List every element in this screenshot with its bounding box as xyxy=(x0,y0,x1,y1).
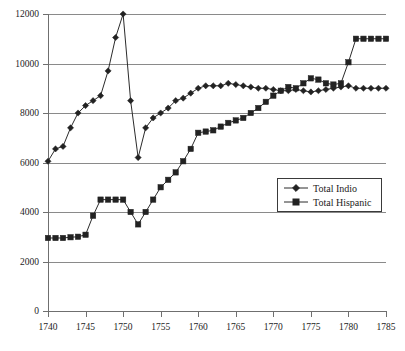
data-point-0-9 xyxy=(113,34,119,40)
x-tick-label-1755: 1755 xyxy=(151,322,170,332)
legend-label-1[interactable]: Total Hispanic xyxy=(313,197,372,208)
data-point-0-41 xyxy=(353,85,359,91)
y-tick-label-8000: 8000 xyxy=(20,108,39,118)
data-point-1-4 xyxy=(75,234,80,239)
chart-container: 020004000600080001000012000 174017451750… xyxy=(0,0,405,351)
data-point-1-41 xyxy=(353,36,358,41)
data-point-1-40 xyxy=(346,60,351,65)
data-point-1-25 xyxy=(233,118,238,123)
data-point-1-0 xyxy=(45,235,50,240)
y-tick-label-12000: 12000 xyxy=(15,9,39,19)
data-point-0-27 xyxy=(248,84,254,90)
x-tick-label-1760: 1760 xyxy=(189,322,208,332)
data-point-0-7 xyxy=(97,93,103,99)
line-chart: 020004000600080001000012000 174017451750… xyxy=(0,0,405,351)
data-point-1-30 xyxy=(271,93,276,98)
data-point-1-23 xyxy=(218,124,223,129)
data-point-1-6 xyxy=(90,213,95,218)
data-point-0-45 xyxy=(383,85,389,91)
data-point-0-29 xyxy=(263,85,269,91)
data-point-1-10 xyxy=(120,197,125,202)
data-point-0-24 xyxy=(225,80,231,86)
data-point-1-12 xyxy=(135,222,140,227)
y-tick-labels-group: 020004000600080001000012000 xyxy=(15,9,39,316)
data-point-1-9 xyxy=(113,197,118,202)
x-tick-label-1775: 1775 xyxy=(301,322,320,332)
x-tick-label-1765: 1765 xyxy=(226,322,245,332)
data-point-1-26 xyxy=(241,115,246,120)
y-tick-label-0: 0 xyxy=(34,306,39,316)
y-tick-label-10000: 10000 xyxy=(15,59,39,69)
data-point-1-2 xyxy=(60,235,65,240)
data-point-0-26 xyxy=(240,83,246,89)
data-point-0-43 xyxy=(368,85,374,91)
data-point-1-35 xyxy=(308,76,313,81)
data-point-1-33 xyxy=(293,86,298,91)
data-point-0-1 xyxy=(52,146,58,152)
chart-legend[interactable]: Total IndioTotal Hispanic xyxy=(278,179,382,212)
data-point-1-1 xyxy=(53,235,58,240)
x-tick-label-1780: 1780 xyxy=(339,322,358,332)
data-point-1-8 xyxy=(105,197,110,202)
x-tick-label-1785: 1785 xyxy=(377,322,396,332)
x-tick-label-1745: 1745 xyxy=(76,322,95,332)
data-point-1-15 xyxy=(158,185,163,190)
data-point-0-28 xyxy=(255,85,261,91)
data-point-0-36 xyxy=(315,88,321,94)
data-point-1-13 xyxy=(143,209,148,214)
data-point-0-12 xyxy=(135,154,141,160)
data-point-1-11 xyxy=(128,209,133,214)
legend-marker-square-icon xyxy=(293,199,299,205)
data-point-1-38 xyxy=(331,82,336,87)
data-point-0-35 xyxy=(308,89,314,95)
data-point-0-42 xyxy=(360,85,366,91)
data-point-1-5 xyxy=(83,232,88,237)
data-point-0-6 xyxy=(90,98,96,104)
data-point-0-44 xyxy=(375,85,381,91)
data-point-1-42 xyxy=(361,36,366,41)
data-point-0-2 xyxy=(60,143,66,149)
data-point-1-28 xyxy=(256,105,261,110)
data-point-1-7 xyxy=(98,197,103,202)
data-point-1-34 xyxy=(301,81,306,86)
data-point-1-17 xyxy=(173,170,178,175)
data-point-0-25 xyxy=(233,81,239,87)
data-point-0-8 xyxy=(105,68,111,74)
data-point-0-30 xyxy=(270,86,276,92)
data-point-0-37 xyxy=(323,86,329,92)
y-tick-label-6000: 6000 xyxy=(20,158,39,168)
x-tick-label-1770: 1770 xyxy=(264,322,283,332)
data-point-1-18 xyxy=(181,159,186,164)
data-point-1-39 xyxy=(338,81,343,86)
data-point-0-18 xyxy=(180,95,186,101)
data-point-1-21 xyxy=(203,129,208,134)
data-point-0-21 xyxy=(203,83,209,89)
data-point-1-16 xyxy=(165,177,170,182)
data-point-1-44 xyxy=(376,36,381,41)
y-tick-label-4000: 4000 xyxy=(20,207,39,217)
data-point-0-20 xyxy=(195,85,201,91)
data-point-1-14 xyxy=(150,197,155,202)
x-axis xyxy=(48,311,387,317)
data-point-1-32 xyxy=(286,84,291,89)
data-point-0-3 xyxy=(67,125,73,131)
data-point-1-27 xyxy=(248,110,253,115)
data-point-0-15 xyxy=(158,110,164,116)
x-tick-labels-group: 1740174517501755176017651770177517801785 xyxy=(39,322,396,332)
data-point-1-29 xyxy=(263,99,268,104)
data-point-1-3 xyxy=(68,235,73,240)
data-point-0-23 xyxy=(218,83,224,89)
data-point-1-19 xyxy=(188,146,193,151)
y-tick-label-2000: 2000 xyxy=(20,257,39,267)
y-axis xyxy=(43,14,49,317)
data-point-1-31 xyxy=(278,88,283,93)
data-point-1-20 xyxy=(196,130,201,135)
data-point-0-11 xyxy=(128,98,134,104)
legend-label-0[interactable]: Total Indio xyxy=(313,183,357,194)
data-point-1-43 xyxy=(368,36,373,41)
data-point-0-34 xyxy=(300,88,306,94)
data-point-1-22 xyxy=(211,128,216,133)
data-point-1-24 xyxy=(226,120,231,125)
data-point-1-37 xyxy=(323,81,328,86)
data-point-0-19 xyxy=(188,90,194,96)
